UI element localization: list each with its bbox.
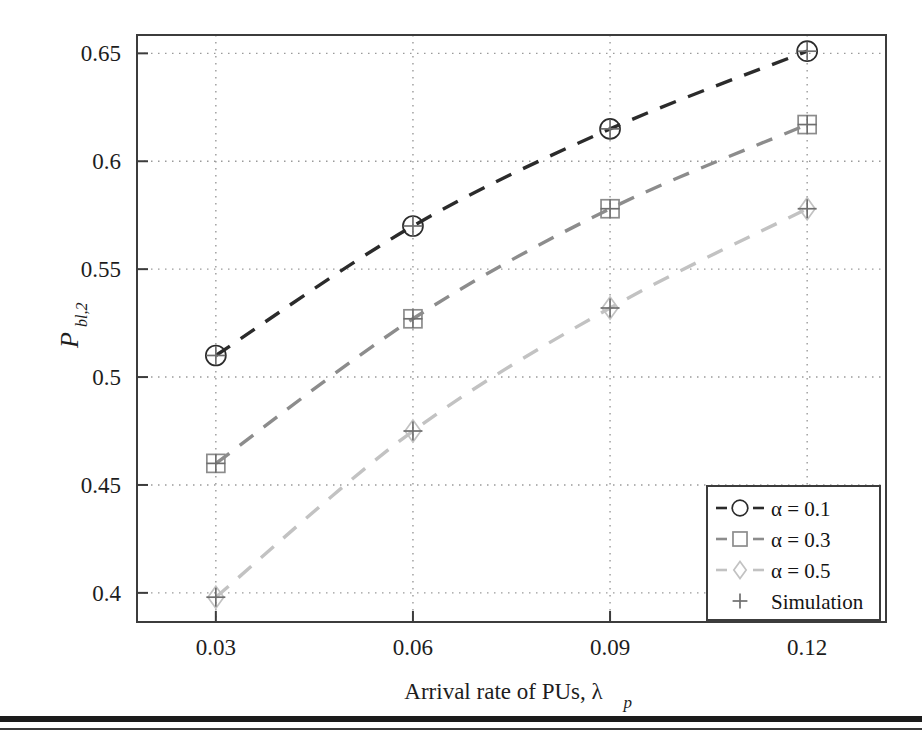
x-axis-title-subscript: p — [623, 693, 633, 712]
x-tick-label-1: 0.06 — [393, 635, 433, 660]
y-tick-label-4: 0.6 — [92, 149, 121, 174]
chart-legend: α = 0.1α = 0.3α = 0.5Simulation — [707, 486, 880, 620]
legend-label-1: α = 0.3 — [771, 528, 831, 552]
y-tick-label-3: 0.55 — [81, 257, 121, 282]
x-axis-title: Arrival rate of PUs, λ — [404, 679, 603, 704]
y-tick-label-2: 0.5 — [92, 365, 121, 390]
chart-background — [0, 0, 922, 737]
y-tick-label-5: 0.65 — [81, 41, 121, 66]
legend-label-3: Simulation — [771, 590, 864, 614]
y-tick-label-1: 0.45 — [81, 473, 121, 498]
x-tick-label-2: 0.09 — [590, 635, 630, 660]
y-tick-label-0: 0.4 — [92, 581, 121, 606]
page-bottom-rule-thin — [0, 728, 922, 730]
line-chart: 0.40.450.50.550.60.65 0.030.060.090.12 α… — [0, 0, 922, 737]
page-bottom-rule — [0, 716, 922, 722]
legend-label-2: α = 0.5 — [771, 559, 831, 583]
figure-container: 0.40.450.50.550.60.65 0.030.060.090.12 α… — [0, 0, 922, 737]
y-axis-title-subscript: bl,2 — [73, 303, 90, 327]
x-tick-label-3: 0.12 — [787, 635, 827, 660]
y-axis-title: P — [55, 332, 84, 349]
legend-label-0: α = 0.1 — [771, 497, 831, 521]
x-tick-label-0: 0.03 — [196, 635, 236, 660]
